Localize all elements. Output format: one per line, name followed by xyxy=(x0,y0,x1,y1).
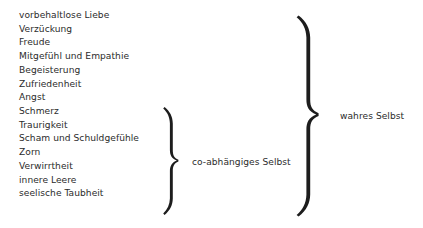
list-item: Verzückung xyxy=(19,23,169,37)
list-item: seelische Taubheit xyxy=(19,187,169,201)
list-item: Zufriedenheit xyxy=(19,78,169,92)
group-label-true-self: wahres Selbst xyxy=(340,111,404,122)
list-item: Begeisterung xyxy=(19,64,169,78)
emotion-self-diagram: vorbehaltlose Liebe Verzückung Freude Mi… xyxy=(0,0,423,228)
list-item: Freude xyxy=(19,36,169,50)
emotion-list: vorbehaltlose Liebe Verzückung Freude Mi… xyxy=(19,9,169,201)
list-item: Traurigkeit xyxy=(19,119,169,133)
list-item: Scham und Schuldgefühle xyxy=(19,132,169,146)
list-item: vorbehaltlose Liebe xyxy=(19,9,169,23)
list-item: Zorn xyxy=(19,146,169,160)
list-item: Mitgefühl und Empathie xyxy=(19,50,169,64)
list-item: innere Leere xyxy=(19,174,169,188)
group-label-codependent-self: co-abhängiges Selbst xyxy=(192,157,291,168)
list-item: Verwirrtheit xyxy=(19,160,169,174)
list-item: Angst xyxy=(19,91,169,105)
curly-brace-true-self xyxy=(297,16,319,217)
list-item: Schmerz xyxy=(19,105,169,119)
